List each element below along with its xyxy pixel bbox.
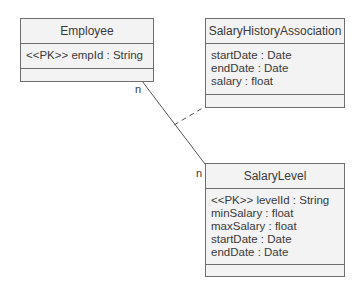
class-attributes: <<PK>> levelId : String minSalary : floa… bbox=[206, 189, 344, 265]
attribute: endDate : Date bbox=[211, 246, 344, 259]
attribute: maxSalary : float bbox=[211, 220, 344, 233]
multiplicity-salary-level: n bbox=[196, 167, 202, 179]
attribute: startDate : Date bbox=[211, 233, 344, 246]
class-name: Employee bbox=[21, 19, 153, 44]
multiplicity-employee: n bbox=[135, 83, 141, 95]
class-salary-history-association[interactable]: SalaryHistoryAssociation startDate : Dat… bbox=[205, 18, 345, 108]
attribute: <<PK>> empId : String bbox=[26, 49, 153, 62]
association-class-dashed-link bbox=[174, 106, 206, 125]
association-line bbox=[142, 81, 205, 164]
class-employee[interactable]: Employee <<PK>> empId : String bbox=[20, 18, 154, 82]
class-attributes: startDate : Date endDate : Date salary :… bbox=[206, 44, 344, 95]
class-attributes: <<PK>> empId : String bbox=[21, 44, 153, 69]
attribute: salary : float bbox=[211, 75, 344, 88]
class-name: SalaryHistoryAssociation bbox=[206, 19, 344, 44]
attribute: endDate : Date bbox=[211, 62, 344, 75]
attribute: startDate : Date bbox=[211, 49, 344, 62]
class-salary-level[interactable]: SalaryLevel <<PK>> levelId : String minS… bbox=[205, 163, 345, 277]
attribute: minSalary : float bbox=[211, 207, 344, 220]
class-name: SalaryLevel bbox=[206, 164, 344, 189]
attribute: <<PK>> levelId : String bbox=[211, 194, 344, 207]
